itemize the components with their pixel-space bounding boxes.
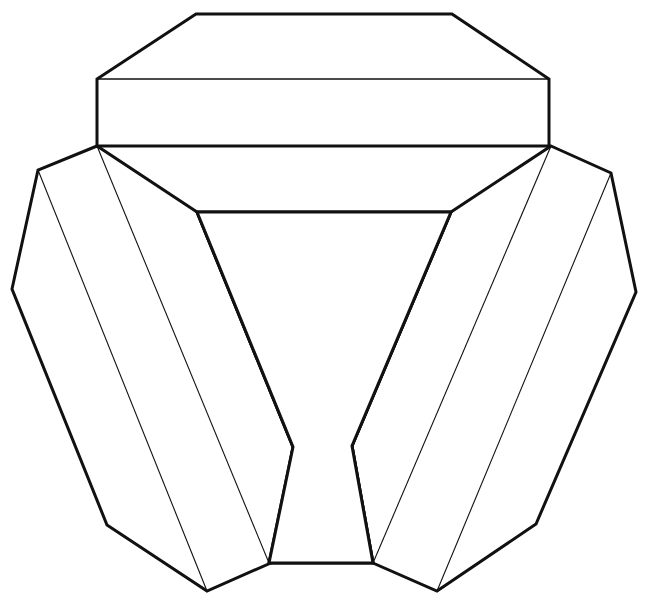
net-diagram-svg xyxy=(0,0,647,613)
diagram-canvas xyxy=(0,0,647,613)
